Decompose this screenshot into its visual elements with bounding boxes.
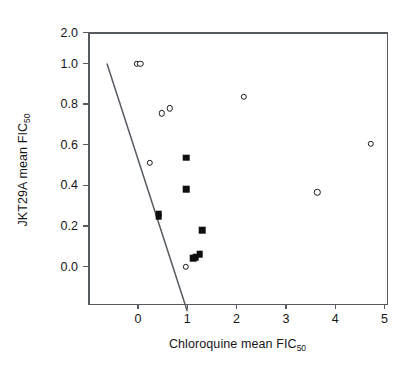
synergy-threshold-line: [0, 0, 412, 372]
scatter-plot-figure: JKT29A mean FIC50 Chloroquine mean FIC50…: [0, 0, 412, 372]
